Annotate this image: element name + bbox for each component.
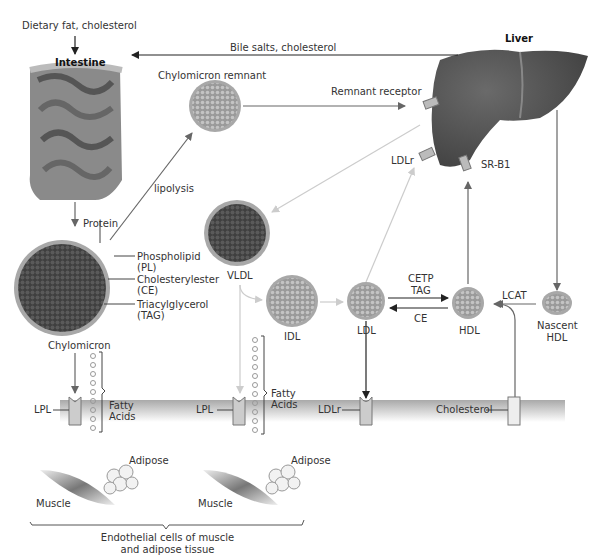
endothelial-brace <box>30 520 304 529</box>
cetp-label: CETP <box>408 273 433 285</box>
protein-label: Protein <box>83 218 118 230</box>
chylomicron-particle <box>14 240 110 336</box>
endothelial-label-line1: Endothelial cells of muscle <box>60 532 275 544</box>
fatty-acids-label-2b: Acids <box>271 399 298 411</box>
adipose-icon-2 <box>266 465 300 494</box>
intestine-icon <box>30 63 122 200</box>
dietary-input-label: Dietary fat, cholesterol <box>22 20 137 32</box>
lcat-label: LCAT <box>502 290 527 302</box>
lpl-label-1: LPL <box>34 404 51 416</box>
nascent-hdl-particle <box>542 291 572 315</box>
ldlr-membrane-receptor <box>360 397 372 425</box>
chylomicron-label: Chylomicron <box>48 340 111 352</box>
ldl-to-liver-arrow <box>366 168 414 282</box>
muscle-label-2: Muscle <box>198 498 233 510</box>
ldl-label: LDL <box>357 325 376 337</box>
intestine-label: Intestine <box>55 57 105 69</box>
bile-label: Bile salts, cholesterol <box>230 42 336 54</box>
nascent-hdl-label-line1: Nascent <box>537 320 577 332</box>
vldl-particle <box>204 200 270 266</box>
chylomicron-remnant-particle <box>189 80 241 132</box>
triacylglycerol-abbr-label: (TAG) <box>137 310 165 322</box>
liver-ldlr-icon <box>419 147 435 160</box>
adipose-label-2: Adipose <box>291 455 331 467</box>
idl-label: IDL <box>284 331 300 343</box>
cholesterylester-abbr-label: (CE) <box>137 285 158 297</box>
hdl-label: HDL <box>459 325 480 337</box>
adipose-label-1: Adipose <box>129 455 169 467</box>
ldl-particle <box>347 282 385 320</box>
hdl-particle <box>452 287 484 319</box>
nascent-hdl-label-line2: HDL <box>537 332 577 344</box>
ldlr-membrane-label: LDLr <box>318 404 341 416</box>
lipolysis-label: lipolysis <box>154 183 194 195</box>
liver-label: Liver <box>505 33 533 45</box>
vldl-to-idl-arrow <box>240 285 262 300</box>
liver-icon <box>432 50 588 167</box>
adipose-icon-1 <box>104 465 138 494</box>
diagram-canvas <box>0 0 602 559</box>
vldl-label: VLDL <box>227 270 253 282</box>
cholesterol-transporter <box>508 397 520 425</box>
ce-label: CE <box>414 313 427 325</box>
chylomicron-remnant-label: Chylomicron remnant <box>158 70 266 82</box>
remnant-receptor-label: Remnant receptor <box>331 86 422 98</box>
liver-to-vldl-arrow <box>272 125 420 212</box>
idl-particle <box>266 275 318 327</box>
srb1-label: SR-B1 <box>481 159 510 171</box>
tag-label: TAG <box>411 285 431 297</box>
phospholipid-abbr-label: (PL) <box>137 262 156 274</box>
lpl-label-2: LPL <box>196 404 213 416</box>
cholesterol-efflux-arrow <box>496 304 515 400</box>
cholesterol-membrane-label: Cholesterol <box>436 404 492 416</box>
muscle-label-1: Muscle <box>36 498 71 510</box>
endothelial-label-line2: and adipose tissue <box>60 544 275 556</box>
fatty-acids-label-1b: Acids <box>109 411 136 423</box>
liver-ldlr-label: LDLr <box>391 155 414 167</box>
